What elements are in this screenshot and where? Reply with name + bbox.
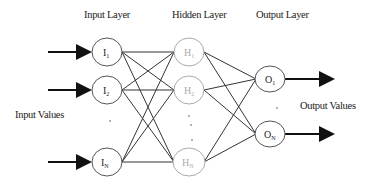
node-i2 xyxy=(92,76,122,104)
input-values-label: Input Values xyxy=(15,109,64,120)
hidden-layer-title: Hidden Layer xyxy=(172,9,226,20)
hidden-nodes xyxy=(173,38,205,176)
input-arrows xyxy=(48,52,90,162)
neural-network-diagram: I1 I2 IN H1 H2 HN O1 ON Input Layer Hidd… xyxy=(0,0,377,184)
hidden-output-connections xyxy=(204,52,256,162)
output-layer-title: Output Layer xyxy=(256,9,309,20)
node-in xyxy=(92,148,122,176)
network-graphic: I1 I2 IN H1 H2 HN O1 ON xyxy=(0,0,377,184)
node-i1 xyxy=(92,38,122,66)
input-hidden-connections xyxy=(122,52,174,162)
output-values-label: Output Values xyxy=(300,100,356,111)
input-layer-title: Input Layer xyxy=(84,9,130,20)
